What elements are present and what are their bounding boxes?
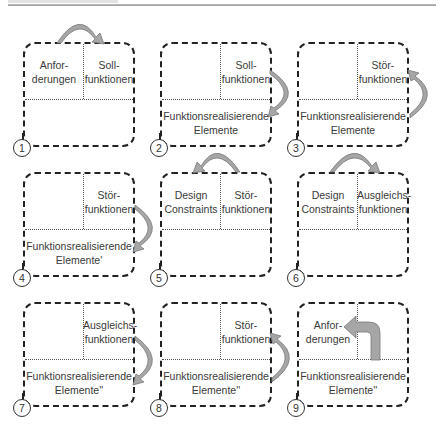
horizontal-divider (162, 99, 270, 100)
top-right-cell-line: funktionen (83, 332, 135, 346)
top-left-cell: Anfor-derungen (299, 318, 357, 346)
horizontal-divider (25, 359, 133, 360)
vertical-divider (357, 304, 358, 359)
arrow-5-icon (193, 153, 240, 173)
step-number-badge: 5 (150, 269, 168, 287)
arrow-3-icon (408, 70, 427, 118)
top-left-cell-line: Constraints (162, 202, 220, 216)
top-right-cell-line: Soll- (83, 58, 135, 72)
top-left-cell-line: Anfor- (299, 318, 357, 332)
bottom-cell-line: Elemente (299, 123, 407, 137)
top-left-cell: DesignConstraints (299, 188, 357, 216)
top-right-cell-line: funktionen (220, 332, 272, 346)
top-right-cell-line: funktionen (83, 72, 135, 86)
bottom-cell-line: Elemente' (25, 253, 133, 267)
bottom-cell-line: Funktionsrealisierende (299, 369, 407, 383)
step-box-7: Ausgleichs-funktionenFunktionsrealisiere… (23, 302, 135, 407)
bottom-cell: FunktionsrealisierendeElemente (299, 109, 407, 137)
bottom-cell-line: Funktionsrealisierende (162, 109, 270, 123)
horizontal-divider (299, 99, 407, 100)
top-left-cell-line: derungen (25, 72, 83, 86)
top-right-cell-line: Ausgleichs- (83, 318, 135, 332)
step-number-badge: 8 (150, 399, 168, 417)
step-number-badge: 4 (13, 269, 31, 287)
step-box-3: Stör-funktionenFunktionsrealisierendeEle… (297, 42, 409, 147)
top-left-cell: DesignConstraints (162, 188, 220, 216)
top-right-cell-line: Stör- (220, 188, 272, 202)
bottom-cell-line: Elemente (162, 123, 270, 137)
horizontal-divider (162, 359, 270, 360)
bottom-cell-line: Funktionsrealisierende (162, 369, 270, 383)
step-box-4: Stör-funktionenFunktionsrealisierendeEle… (23, 172, 135, 277)
header-faded-text (8, 0, 118, 3)
step-number-badge: 7 (13, 399, 31, 417)
bottom-cell: FunktionsrealisierendeElemente'' (25, 369, 133, 397)
bottom-cell-line: Funktionsrealisierende (299, 109, 407, 123)
header-rule (8, 4, 436, 6)
step-number-badge: 6 (287, 269, 305, 287)
top-right-cell-line: funktionen (220, 72, 272, 86)
step-box-5: DesignConstraintsStör-funktionen5 (160, 172, 272, 277)
top-right-cell: Stör-funktionen (220, 318, 272, 346)
bottom-cell: FunktionsrealisierendeElemente'' (299, 369, 407, 397)
top-right-cell: Soll-funktionen (220, 58, 272, 86)
bottom-cell: FunktionsrealisierendeElemente'' (162, 369, 270, 397)
top-right-cell-line: funktionen (357, 202, 409, 216)
top-right-cell: Ausgleichs-funktionen (357, 188, 409, 216)
step-box-8: Stör-funktionenFunktionsrealisierendeEle… (160, 302, 272, 407)
step-number-badge: 9 (287, 399, 305, 417)
step-box-1: Anfor-derungenSoll-funktionen1 (23, 42, 135, 147)
top-left-cell-line: Constraints (299, 202, 357, 216)
horizontal-divider (25, 229, 133, 230)
bottom-cell-line: Elemente'' (25, 383, 133, 397)
step-number-badge: 1 (13, 139, 31, 157)
horizontal-divider (299, 359, 407, 360)
horizontal-divider (299, 229, 407, 230)
top-left-cell-line: Design (162, 188, 220, 202)
step-number-badge: 3 (287, 139, 305, 157)
top-right-cell: Soll-funktionen (83, 58, 135, 86)
top-right-cell: Stör-funktionen (83, 188, 135, 216)
horizontal-divider (162, 229, 270, 230)
horizontal-divider (25, 99, 133, 100)
top-left-cell-line: derungen (299, 332, 357, 346)
top-left-cell: Anfor-derungen (25, 58, 83, 86)
bottom-cell-line: Funktionsrealisierende (25, 369, 133, 383)
top-right-cell-line: funktionen (83, 202, 135, 216)
top-right-cell-line: funktionen (220, 202, 272, 216)
arrow-7-icon (133, 336, 152, 385)
top-right-cell-line: Ausgleichs- (357, 188, 409, 202)
bottom-cell: FunktionsrealisierendeElemente (162, 109, 270, 137)
step-box-6: DesignConstraintsAusgleichs-funktionen6 (297, 172, 409, 277)
arrow-4-icon (133, 205, 152, 252)
top-right-cell-line: Soll- (220, 58, 272, 72)
top-right-cell: Stör-funktionen (357, 58, 409, 86)
bottom-cell-line: Elemente'' (162, 383, 270, 397)
top-left-cell-line: Design (299, 188, 357, 202)
top-right-cell: Ausgleichs-funktionen (83, 318, 135, 346)
top-right-cell-line: Stör- (220, 318, 272, 332)
top-right-cell-line: Stör- (83, 188, 135, 202)
top-left-cell-line: Anfor- (25, 58, 83, 72)
top-right-cell-line: Stör- (357, 58, 409, 72)
arrow-6-icon (330, 153, 380, 173)
step-box-9: Anfor-derungenFunktionsrealisierendeElem… (297, 302, 409, 407)
bottom-cell-line: Elemente'' (299, 383, 407, 397)
bottom-cell-line: Funktionsrealisierende (25, 239, 133, 253)
step-box-2: Soll-funktionenFunktionsrealisierendeEle… (160, 42, 272, 147)
step-number-badge: 2 (150, 139, 168, 157)
top-right-cell: Stör-funktionen (220, 188, 272, 216)
bottom-cell: FunktionsrealisierendeElemente' (25, 239, 133, 267)
top-right-cell-line: funktionen (357, 72, 409, 86)
arrow-8-icon (270, 333, 289, 382)
